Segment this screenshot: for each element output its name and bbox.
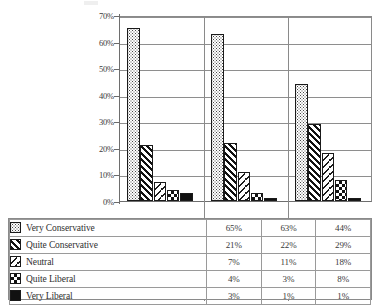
legend-swatch-dash-icon [10,256,21,267]
bar-quite-liberal-group-2 [251,193,264,201]
legend-value-cell: 11% [261,254,316,271]
legend-label-cell: Quite Conservative [10,237,207,254]
y-axis-label-40: 40% [78,91,114,100]
legend-series-label: Quite Liberal [26,274,76,285]
y-axis-label-30: 30% [78,118,114,127]
bar-neutral-group-3 [322,153,335,201]
y-axis-label-60: 60% [78,38,114,47]
legend-value-cell: 1% [316,288,371,305]
legend-value-cell: 1% [261,288,316,305]
bar-quite-conservative-group-1 [140,145,153,201]
plot-region: 0%10%20%30%40%50%60%70% [0,0,388,212]
legend-series-label: Neutral [26,257,54,268]
legend-swatch-dots-icon [10,222,21,233]
legend-value-cell: 22% [261,237,316,254]
y-axis-label-50: 50% [78,65,114,74]
legend-label-cell: Very Conservative [10,220,207,237]
bar-neutral-group-1 [154,182,167,201]
swatch-fill [10,222,21,233]
y-axis-label-20: 20% [78,144,114,153]
legend-label-cell: Very Liberal [10,288,207,305]
y-axis-tick-labels: 0%10%20%30%40%50%60%70% [78,16,114,202]
legend-value-cell: 7% [207,254,262,271]
legend-value-cell: 3% [207,288,262,305]
y-axis-label-10: 10% [78,171,114,180]
legend-value-cell: 18% [316,254,371,271]
legend-label-cell: Neutral [10,254,207,271]
legend-series-label: Quite Conservative [26,240,98,251]
legend-table-element: Very Conservative65%63%44%Quite Conserva… [9,219,371,305]
bar-very-liberal-group-3 [348,198,361,201]
swatch-fill [10,290,21,301]
bar-very-conservative-group-3 [295,84,308,201]
legend-swatch-solid-icon [10,290,21,301]
legend-swatch-diag-icon [10,239,21,250]
legend-value-cell: 63% [261,220,316,237]
bar-very-conservative-group-1 [127,28,140,201]
legend-value-cell: 4% [207,271,262,288]
legend-row: Very Liberal3%1%1% [10,288,371,305]
bar-group-2 [204,15,288,201]
bar-quite-conservative-group-3 [308,124,321,201]
legend-value-cell: 3% [261,271,316,288]
legend-series-label: Very Liberal [26,291,73,302]
legend-value-cell: 65% [207,220,262,237]
bar-neutral-group-2 [238,172,251,201]
bar-very-conservative-group-2 [211,34,224,201]
plot-area [120,16,372,202]
swatch-fill [10,239,21,250]
legend-label-cell: Quite Liberal [10,271,207,288]
legend-value-cell: 44% [316,220,371,237]
legend-series-label: Very Conservative [26,223,95,234]
legend-value-cell: 29% [316,237,371,254]
bar-group-1 [120,15,204,201]
bar-quite-liberal-group-1 [167,190,180,201]
y-axis-label-70: 70% [78,12,114,21]
legend-table-body: Very Conservative65%63%44%Quite Conserva… [10,220,371,305]
legend-row: Quite Conservative21%22%29% [10,237,371,254]
y-axis-label-0: 0% [78,198,114,207]
legend-swatch-check-icon [10,273,21,284]
legend-value-cell: 21% [207,237,262,254]
legend-value-cell: 8% [316,271,371,288]
bar-very-liberal-group-1 [180,193,193,201]
swatch-fill [10,256,21,267]
legend-row: Neutral7%11%18% [10,254,371,271]
legend-data-table: Very Conservative65%63%44%Quite Conserva… [8,218,372,300]
bar-group-3 [288,15,372,201]
legend-row: Quite Liberal4%3%8% [10,271,371,288]
swatch-fill [10,273,21,284]
bar-quite-conservative-group-2 [224,143,237,201]
legend-row: Very Conservative65%63%44% [10,220,371,237]
bar-quite-liberal-group-3 [335,180,348,201]
bar-very-liberal-group-2 [264,198,277,201]
